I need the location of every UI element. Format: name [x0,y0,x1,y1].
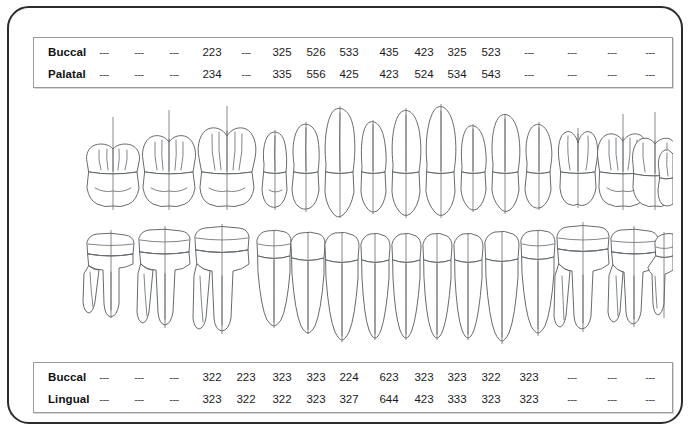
measurement-cell[interactable]: 644 [374,388,404,410]
measurement-cell[interactable]: 323 [197,388,227,410]
measurement-cell[interactable]: --- [597,366,627,388]
tooth-lower-44[interactable] [521,230,555,336]
measurement-cell[interactable]: 523 [476,41,506,63]
tooth-lower-46[interactable] [554,222,609,332]
tooth-lower-35[interactable] [257,230,291,328]
measurement-cell[interactable]: 323 [514,366,544,388]
tooth-lower-33[interactable] [325,232,359,342]
measurement-cell[interactable]: --- [124,366,154,388]
measurement-cell[interactable]: 323 [476,388,506,410]
tooth-upper-24[interactable] [525,122,552,210]
measurement-cell[interactable]: 534 [442,63,472,85]
measurement-cell[interactable]: 223 [197,41,227,63]
measurement-cell[interactable]: 423 [374,63,404,85]
tooth-upper-13[interactable] [325,106,355,218]
measurement-cell[interactable]: --- [597,41,627,63]
dental-arch-diagram [33,92,673,354]
tooth-upper-11[interactable] [392,108,421,218]
measurement-cells-buccal-lower: ---------322223323323224623323323322323-… [34,366,672,388]
measurement-cell[interactable]: 234 [197,63,227,85]
measurement-cell[interactable]: 323 [514,388,544,410]
measurement-cell[interactable]: 556 [301,63,331,85]
measurement-row-lingual-lower: Lingual ---------32332232232332764442333… [34,388,672,410]
tooth-lower-42[interactable] [454,233,483,340]
measurement-cell[interactable]: --- [557,63,587,85]
tooth-lower-31[interactable] [392,233,421,340]
measurement-cell[interactable]: --- [159,41,189,63]
tooth-lower-38[interactable] [83,230,134,318]
measurement-cells-lingual-lower: ---------323322322323327644423333323323-… [34,388,672,410]
tooth-upper-14[interactable] [292,122,319,212]
tooth-upper-23[interactable] [492,114,520,214]
tooth-upper-17[interactable] [142,110,195,210]
measurement-cell[interactable]: 322 [197,366,227,388]
measurement-cell[interactable]: 323 [301,388,331,410]
measurement-cell[interactable]: --- [231,63,261,85]
measurement-cell[interactable]: --- [124,63,154,85]
measurement-cell[interactable]: 543 [476,63,506,85]
measurement-cell[interactable]: --- [597,63,627,85]
measurement-cell[interactable]: --- [159,366,189,388]
measurement-cell[interactable]: 526 [301,41,331,63]
measurement-cell[interactable]: --- [514,41,544,63]
measurement-cell[interactable]: 323 [442,366,472,388]
measurement-cell[interactable]: --- [635,41,665,63]
measurement-cell[interactable]: 322 [231,388,261,410]
measurement-cell[interactable]: --- [89,388,119,410]
measurement-row-buccal-lower: Buccal ---------322223323323224623323323… [34,366,672,388]
tooth-lower-41[interactable] [423,233,452,340]
measurement-cell[interactable]: --- [159,63,189,85]
measurement-cell[interactable]: 423 [409,41,439,63]
measurement-cell[interactable]: 323 [409,366,439,388]
measurement-cell[interactable]: 435 [374,41,404,63]
tooth-lower-37[interactable] [137,226,190,328]
measurement-cell[interactable]: 224 [334,366,364,388]
measurement-cell[interactable]: 322 [476,366,506,388]
measurement-cell[interactable]: --- [231,41,261,63]
measurement-cell[interactable]: --- [89,63,119,85]
measurement-cell[interactable]: 423 [409,388,439,410]
measurement-cell[interactable]: 325 [267,41,297,63]
measurement-cell[interactable]: 524 [409,63,439,85]
measurement-cell[interactable]: 323 [267,366,297,388]
tooth-upper-12[interactable] [361,120,386,214]
measurement-cell[interactable]: --- [557,41,587,63]
tooth-upper-25[interactable] [558,128,597,208]
tooth-upper-15[interactable] [262,130,287,210]
tooth-lower-36[interactable] [193,224,249,334]
tooth-lower-43[interactable] [485,231,519,344]
measurement-cell[interactable]: --- [514,63,544,85]
measurement-cells-palatal-upper: ---------234---335556425423524534543----… [34,63,672,85]
measurement-cell[interactable]: --- [159,388,189,410]
tooth-lower-32[interactable] [361,233,390,340]
measurement-cell[interactable]: 425 [334,63,364,85]
measurement-cell[interactable]: 327 [334,388,364,410]
tooth-upper-28[interactable] [658,150,673,206]
measurement-cell[interactable]: --- [557,388,587,410]
measurement-cell[interactable]: --- [635,388,665,410]
measurement-cell[interactable]: --- [597,388,627,410]
measurement-cell[interactable]: 623 [374,366,404,388]
measurement-cell[interactable]: --- [124,41,154,63]
mandibular-arch [83,222,673,344]
tooth-lower-47[interactable] [608,226,658,327]
measurement-cell[interactable]: --- [635,366,665,388]
measurement-cell[interactable]: --- [89,366,119,388]
measurement-cell[interactable]: --- [124,388,154,410]
measurement-cell[interactable]: --- [557,366,587,388]
measurement-cell[interactable]: 223 [231,366,261,388]
measurement-cell[interactable]: 333 [442,388,472,410]
upper-arch-measurement-table: Buccal ---------223---325526533435423325… [33,37,673,88]
tooth-upper-21[interactable] [426,104,456,218]
measurement-cell[interactable]: 323 [301,366,331,388]
tooth-upper-16[interactable] [198,106,256,210]
measurement-cell[interactable]: --- [635,63,665,85]
tooth-lower-34[interactable] [291,232,325,334]
measurement-cell[interactable]: 322 [267,388,297,410]
measurement-cell[interactable]: --- [89,41,119,63]
tooth-upper-18[interactable] [86,117,139,210]
measurement-cell[interactable]: 335 [267,63,297,85]
tooth-upper-22[interactable] [461,124,486,212]
measurement-cell[interactable]: 533 [334,41,364,63]
measurement-cell[interactable]: 325 [442,41,472,63]
